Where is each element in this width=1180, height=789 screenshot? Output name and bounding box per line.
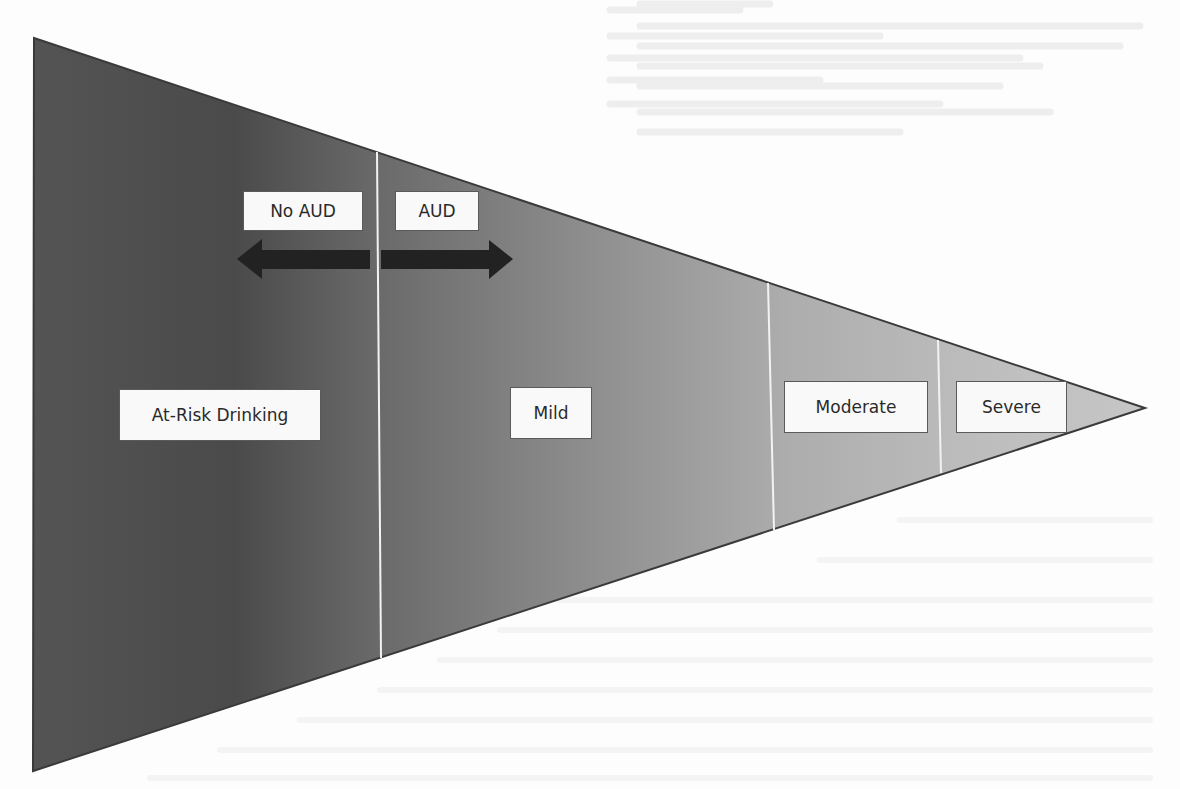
segment-label-mild: Mild (510, 387, 592, 439)
segment-label-moderate-text: Moderate (816, 397, 897, 417)
segment-label-at-risk-drinking-text: At-Risk Drinking (152, 405, 288, 425)
label-aud-text: AUD (418, 201, 455, 221)
segment-label-mild-text: Mild (534, 403, 569, 423)
label-no-aud-text: No AUD (270, 201, 336, 221)
segment-label-at-risk-drinking: At-Risk Drinking (119, 389, 321, 441)
segment-label-severe-text: Severe (982, 397, 1041, 417)
segment-label-moderate: Moderate (784, 381, 928, 433)
label-no-aud: No AUD (243, 191, 363, 231)
label-aud: AUD (395, 191, 479, 231)
segment-label-severe: Severe (956, 381, 1067, 433)
